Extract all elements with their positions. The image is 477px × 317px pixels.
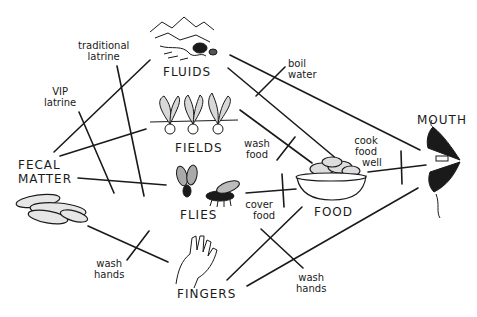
barrier-label-wash-food-line2: food <box>244 149 270 160</box>
barrier-label-wash-hands-right-line2: hands <box>296 283 326 294</box>
path-feces-fingers <box>88 226 168 262</box>
barrier-label-wash-hands-right: wash hands <box>296 272 326 294</box>
node-fecal-matter: FECAL MATTER <box>18 158 72 186</box>
path-fluids-mouth <box>230 55 420 150</box>
barrier-label-vip-latrine-line2: latrine <box>44 97 76 108</box>
barrier-label-boil-water-line2: water <box>288 69 317 80</box>
node-fecal-matter-line1: FECAL <box>18 158 72 172</box>
node-food: FOOD <box>314 205 353 219</box>
barrier-label-cover-food-line1: cover <box>243 199 275 210</box>
feces-illustration <box>15 192 88 226</box>
path-flies-food <box>246 189 296 193</box>
barrier-label-vip-latrine-line1: VIP <box>44 86 76 97</box>
barrier-label-cook-food-well-line2: food <box>350 146 382 157</box>
barrier-label-boil-water: boil water <box>288 58 317 80</box>
barrier-label-cook-food-well-line3: well <box>350 157 382 168</box>
barrier-cover-food <box>282 174 284 207</box>
mouth-illustration <box>427 120 460 218</box>
barrier-label-cook-food-well: cook food well <box>350 135 382 168</box>
hand-illustration <box>176 236 217 288</box>
node-flies: FLIES <box>180 208 217 222</box>
barrier-label-cook-food-well-line1: cook <box>350 135 382 146</box>
node-fingers: FINGERS <box>177 287 236 301</box>
barrier-label-wash-food: wash food <box>244 138 270 160</box>
barrier-wash-hands-right <box>261 229 303 268</box>
barrier-label-wash-hands-left: wash hands <box>94 258 124 280</box>
node-fluids: FLUIDS <box>163 65 211 79</box>
f-diagram: FECAL MATTER FLUIDS FIELDS FLIES FINGERS… <box>0 0 477 317</box>
node-fields: FIELDS <box>175 141 223 155</box>
flies-illustration <box>175 164 241 207</box>
barrier-label-wash-hands-right-line1: wash <box>296 272 326 283</box>
barrier-label-boil-water-line1: boil <box>288 58 317 69</box>
barrier-label-cover-food-line2: food <box>243 210 275 221</box>
barrier-label-wash-hands-left-line1: wash <box>94 258 124 269</box>
barrier-label-cover-food: cover food <box>243 199 275 221</box>
barrier-cook-food-well <box>401 151 402 184</box>
barrier-label-traditional-latrine-line1: traditional <box>78 40 129 51</box>
fluids-illustration <box>150 17 217 60</box>
path-feces-flies <box>78 178 166 185</box>
barrier-label-traditional-latrine: traditional latrine <box>78 40 129 62</box>
barrier-vip-latrine <box>79 112 114 193</box>
barrier-label-traditional-latrine-line2: latrine <box>78 51 129 62</box>
barrier-label-wash-food-line1: wash <box>244 138 270 149</box>
fields-illustration <box>150 93 238 134</box>
node-mouth: MOUTH <box>417 113 467 127</box>
barrier-label-wash-hands-left-line2: hands <box>94 269 124 280</box>
node-fecal-matter-line2: MATTER <box>18 172 72 186</box>
barrier-boil-water <box>256 67 285 96</box>
barrier-label-vip-latrine: VIP latrine <box>44 86 76 108</box>
